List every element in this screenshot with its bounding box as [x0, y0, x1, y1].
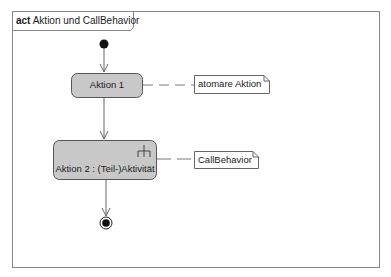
activity-final-node-inner [102, 219, 110, 227]
frame-keyword: act [16, 15, 30, 26]
frame-title: act Aktion und CallBehavior [16, 15, 139, 26]
note2-text: CallBehavior [198, 154, 252, 165]
note1-text: atomare Aktion [198, 78, 261, 89]
diagram-frame [13, 12, 380, 268]
action1-label: Aktion 1 [71, 79, 143, 90]
action2-label: Aktion 2 : (Teil-)Aktivität [53, 163, 157, 174]
initial-node[interactable] [100, 40, 109, 49]
activity-diagram-canvas [0, 0, 391, 277]
frame-name: Aktion und CallBehavior [33, 15, 140, 26]
